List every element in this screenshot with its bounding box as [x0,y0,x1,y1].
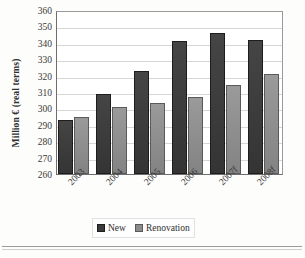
y-axis-tick-label: 340 [26,40,52,50]
bar-renovation-2005 [150,103,165,174]
y-axis-tick-label: 320 [26,73,52,83]
bar-new-2004 [96,94,111,174]
y-axis-title: Million € (real terms) [8,30,24,175]
bar-renovation-2003 [74,117,89,174]
bar-new-2006 [172,41,187,174]
plot-area [56,11,283,175]
y-axis-tick-labels: 360350340330320310300290280270260 [26,7,52,177]
bar-new-2005 [134,71,149,174]
y-axis-tick-label: 310 [26,89,52,99]
bar-new-2008f [248,40,263,174]
bar-groups [57,12,282,174]
y-axis-tick-label: 300 [26,105,52,115]
bar-renovation-2008f [264,74,279,174]
bar-group [133,12,171,174]
y-axis-tick-label: 270 [26,155,52,165]
bar-renovation-2006 [188,97,203,174]
chart-legend: NewRenovation [92,218,195,238]
bar-renovation-2004 [112,107,127,174]
legend-label: New [108,223,126,233]
bar-group [95,12,133,174]
bar-group [208,12,246,174]
bar-new-2007f [210,33,225,174]
bar-group [57,12,95,174]
y-axis-tick-label: 280 [26,138,52,148]
dark-gray-swatch-icon [97,224,105,232]
bar-renovation-2007f [226,85,241,174]
page-divider-rule [2,246,302,247]
medium-gray-swatch-icon [135,224,143,232]
page-divider-rule-secondary [2,249,302,250]
bar-chart-figure: Million € (real terms) 36035034033032031… [0,0,305,258]
bar-group [246,12,284,174]
y-axis-tick-label: 330 [26,56,52,66]
y-axis-title-text: Million € (real terms) [11,58,21,147]
x-axis-tick-labels: 20032004200520062007f2008f [56,176,283,212]
bar-new-2003 [58,120,73,174]
bar-group [171,12,209,174]
y-axis-tick-label: 350 [26,23,52,33]
legend-entry-renovation: Renovation [135,223,190,233]
legend-entry-new: New [97,223,126,233]
y-axis-tick-label: 360 [26,7,52,17]
legend-label: Renovation [146,223,190,233]
y-axis-tick-label: 290 [26,122,52,132]
y-axis-tick-label: 260 [26,171,52,181]
